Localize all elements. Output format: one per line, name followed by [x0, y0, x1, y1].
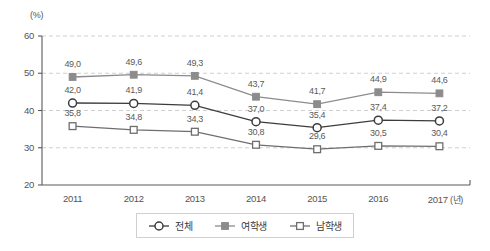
marker-남학생-2016	[375, 142, 382, 149]
line-chart: (%) 2030405060 2011201220132014201520162…	[0, 0, 490, 251]
x-axis-unit-label: (년)	[448, 195, 463, 205]
y-tick-label-20: 20	[12, 179, 34, 190]
x-tick-label-2012: 2012	[124, 193, 144, 204]
x-tick-label-2011: 2011	[63, 193, 82, 204]
marker-여학생-2016	[375, 89, 382, 96]
marker-전체-2012	[130, 99, 138, 107]
data-label-여학생-2013: 49,3	[187, 58, 203, 68]
marker-남학생-2013	[191, 128, 198, 135]
marker-남학생-2017	[436, 143, 443, 150]
data-label-여학생-2012: 49,6	[126, 57, 142, 67]
data-label-여학생-2011: 49,0	[64, 59, 80, 69]
chart-legend: 전체여학생남학생	[136, 213, 354, 238]
y-tick-label-30: 30	[12, 142, 34, 153]
marker-여학생-2014	[253, 93, 260, 100]
data-label-남학생-2012: 34,8	[126, 112, 142, 122]
data-label-전체-2013: 41,4	[187, 87, 203, 97]
y-tick-label-40: 40	[12, 105, 34, 116]
data-label-전체-2015: 35,4	[309, 110, 325, 120]
data-label-남학생-2017: 30,4	[431, 128, 447, 138]
data-label-여학생-2017: 44,6	[431, 75, 447, 85]
data-label-전체-2017: 37,2	[431, 103, 447, 113]
legend-label-여학생: 여학생	[241, 218, 267, 233]
legend-item-여학생[interactable]: 여학생	[214, 218, 267, 233]
data-label-전체-2014: 37,0	[248, 104, 264, 114]
marker-전체-2013	[191, 101, 199, 109]
data-label-남학생-2011: 35,8	[64, 108, 80, 118]
x-tick-label-2015: 2015	[307, 193, 327, 204]
filled-square-icon	[214, 220, 236, 232]
data-label-남학생-2015: 29,6	[309, 131, 325, 141]
marker-여학생-2017	[436, 90, 443, 97]
x-tick-label-2013: 2013	[185, 193, 205, 204]
y-tick-label-50: 50	[12, 67, 34, 78]
x-tick-label-2016: 2016	[368, 193, 388, 204]
legend-item-남학생[interactable]: 남학생	[289, 218, 342, 233]
marker-여학생-2013	[191, 72, 198, 79]
data-label-여학생-2014: 43,7	[248, 79, 264, 89]
data-label-여학생-2015: 41,7	[309, 86, 325, 96]
marker-전체-2016	[374, 116, 382, 124]
legend-label-전체: 전체	[175, 218, 192, 233]
open-circle-icon	[148, 220, 170, 232]
open-square-icon	[289, 220, 311, 232]
y-tick-label-60: 60	[12, 30, 34, 41]
data-label-전체-2012: 41,9	[126, 85, 142, 95]
data-label-전체-2011: 42,0	[64, 85, 80, 95]
x-tick-label-2014: 2014	[246, 193, 266, 204]
marker-여학생-2012	[130, 71, 137, 78]
marker-남학생-2015	[314, 146, 321, 153]
marker-여학생-2015	[314, 101, 321, 108]
marker-남학생-2012	[130, 126, 137, 133]
marker-남학생-2011	[69, 123, 76, 130]
marker-전체-2014	[252, 118, 260, 126]
marker-전체-2017	[435, 117, 443, 125]
legend-label-남학생: 남학생	[316, 218, 342, 233]
data-label-남학생-2013: 34,3	[187, 114, 203, 124]
x-tick-label-2017: 2017 (년)	[428, 193, 463, 206]
data-label-전체-2016: 37,4	[370, 102, 386, 112]
legend-item-전체[interactable]: 전체	[148, 218, 192, 233]
data-label-남학생-2014: 30,8	[248, 127, 264, 137]
marker-남학생-2014	[253, 141, 260, 148]
marker-전체-2011	[69, 99, 77, 107]
data-label-남학생-2016: 30,5	[370, 128, 386, 138]
data-label-여학생-2016: 44,9	[370, 74, 386, 84]
marker-여학생-2011	[69, 74, 76, 81]
